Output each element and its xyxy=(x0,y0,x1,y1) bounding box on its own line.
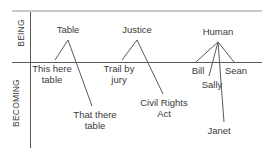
particular-label-bill: Bill xyxy=(192,66,205,77)
particular-label-janet: Janet xyxy=(207,126,230,137)
branch-line-justice xyxy=(137,40,163,94)
particular-label-trail-by-jury: Trail by jury xyxy=(104,64,135,85)
particular-label-this-here-table: This here table xyxy=(32,64,72,85)
diagram-canvas: BEING BECOMING TableJusticeHumanThis her… xyxy=(0,0,265,150)
universal-label-human: Human xyxy=(203,27,234,38)
particular-label-civil-rights-act: Civil Rights Act xyxy=(140,98,188,119)
axis-label-becoming: BECOMING xyxy=(11,79,21,127)
axis-label-being: BEING xyxy=(16,19,26,46)
universal-label-justice: Justice xyxy=(122,25,152,36)
branch-line-justice xyxy=(122,40,137,60)
branch-line-human xyxy=(196,42,218,62)
particular-label-sean: Sean xyxy=(225,66,247,77)
universal-label-table: Table xyxy=(57,25,80,36)
particular-label-that-there-table: That there table xyxy=(73,110,116,131)
particular-label-sally: Sally xyxy=(202,80,223,91)
branch-line-human xyxy=(209,42,218,76)
branch-line-human xyxy=(218,42,234,62)
branch-line-table xyxy=(55,40,68,60)
